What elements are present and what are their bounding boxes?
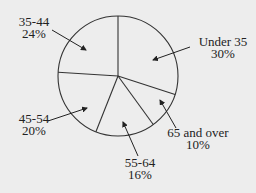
arrow-55-64 (123, 122, 138, 156)
slice-boundary (118, 76, 175, 95)
arrow-35-44 (52, 30, 86, 50)
label-45-54-percent: 20% (14, 125, 54, 137)
label-65-and-over: 65 and over 10% (163, 127, 233, 151)
slice-boundary (118, 76, 153, 125)
arrow-65-and-over (160, 100, 176, 128)
pie-chart: 35-44 24% Under 35 30% 65 and over 10% 5… (0, 0, 256, 193)
label-under-35-percent: 30% (194, 48, 252, 60)
label-35-44-percent: 24% (12, 28, 56, 40)
slice-boundary (58, 72, 118, 76)
slice-boundary (96, 76, 118, 132)
label-35-44: 35-44 24% (12, 16, 56, 40)
label-45-54: 45-54 20% (14, 113, 54, 137)
label-55-64: 55-64 16% (120, 157, 160, 181)
label-under-35: Under 35 30% (194, 36, 252, 60)
pie-slices (58, 16, 178, 136)
label-55-64-percent: 16% (120, 169, 160, 181)
label-65-and-over-percent: 10% (163, 139, 233, 151)
